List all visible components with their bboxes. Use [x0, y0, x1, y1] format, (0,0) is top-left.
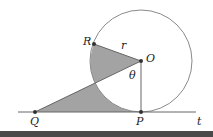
label-P: P [135, 115, 144, 128]
diagram-canvas: R r O θ Q P t [0, 0, 213, 137]
point-Q [33, 110, 37, 114]
label-t: t [197, 115, 202, 128]
point-P [139, 110, 143, 114]
label-R: R [82, 35, 91, 48]
label-theta: θ [129, 69, 136, 82]
bottom-border-bar [0, 131, 213, 137]
point-R [92, 42, 96, 46]
label-r: r [121, 39, 127, 52]
shaded-tangent-region [35, 83, 141, 112]
label-O: O [146, 52, 155, 65]
label-Q: Q [30, 115, 39, 128]
point-O [139, 59, 143, 63]
